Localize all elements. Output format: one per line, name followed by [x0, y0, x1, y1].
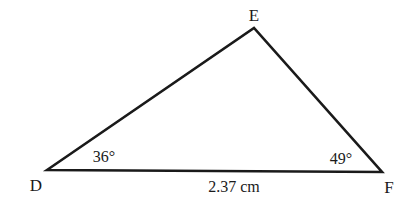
- vertex-label-e: E: [249, 6, 259, 25]
- angle-label-f: 49°: [330, 150, 352, 167]
- vertex-label-f: F: [384, 178, 393, 197]
- angle-label-d: 36°: [93, 148, 115, 165]
- vertex-label-d: D: [30, 176, 42, 195]
- side-label-df: 2.37 cm: [208, 178, 260, 195]
- triangle-diagram: E D F 36° 49° 2.37 cm: [0, 0, 403, 216]
